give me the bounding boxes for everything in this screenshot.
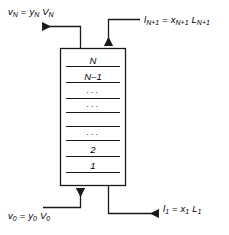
vapor-outlet-rhs-sub-2: N: [49, 11, 54, 18]
vapor-inlet-rhs-sub-2: 0: [46, 215, 50, 222]
liquid-inlet-lhs-sub: N+1: [146, 19, 159, 26]
stage-label-ellipsis-1: ···: [60, 87, 126, 97]
liquid-inlet-rhs-sub-2: N+1: [197, 19, 210, 26]
vapor-inlet-rhs-sub-1: 0: [33, 215, 37, 222]
stage-label-1: 1: [60, 160, 126, 171]
stage-label-ellipsis-3: ···: [60, 129, 126, 139]
liquid-outlet-lhs-sub: 1: [165, 208, 169, 215]
liquid-inlet-path: [109, 20, 141, 46]
vapor-outlet-path: [43, 27, 81, 49]
stage-label-ellipsis-2: ···: [60, 101, 126, 111]
stage-label-N-minus-1: N–1: [60, 71, 126, 82]
stage-label-N: N: [60, 55, 126, 66]
liquid-outlet-label: l1=x1L1: [163, 203, 201, 215]
column-diagram: N N–1 ··· ··· ··· 2 1 vN=yNVN lN+1=xN+1L…: [0, 0, 229, 235]
liquid-inlet-label: lN+1=xN+1LN+1: [144, 14, 210, 26]
liquid-inlet-rhs-sub-1: N+1: [175, 19, 188, 26]
vapor-inlet-label: v0=y0V0: [8, 210, 50, 222]
stage-label-2: 2: [60, 144, 126, 155]
diagram-canvas: [0, 0, 229, 235]
vapor-inlet-operator: =: [20, 210, 26, 221]
liquid-outlet-path: [109, 186, 159, 214]
liquid-inlet-operator: =: [162, 14, 168, 25]
vapor-outlet-rhs-sub-1: N: [34, 11, 39, 18]
liquid-outlet-operator: =: [172, 203, 178, 214]
liquid-outlet-rhs-sub-1: 1: [185, 208, 189, 215]
vapor-outlet-operator: =: [21, 6, 27, 17]
vapor-outlet-lhs-sub: N: [13, 11, 18, 18]
vapor-inlet-path: [43, 189, 81, 208]
vapor-outlet-label: vN=yNVN: [8, 6, 54, 18]
vapor-inlet-lhs-sub: 0: [13, 215, 17, 222]
liquid-outlet-rhs-sub-2: 1: [198, 208, 202, 215]
